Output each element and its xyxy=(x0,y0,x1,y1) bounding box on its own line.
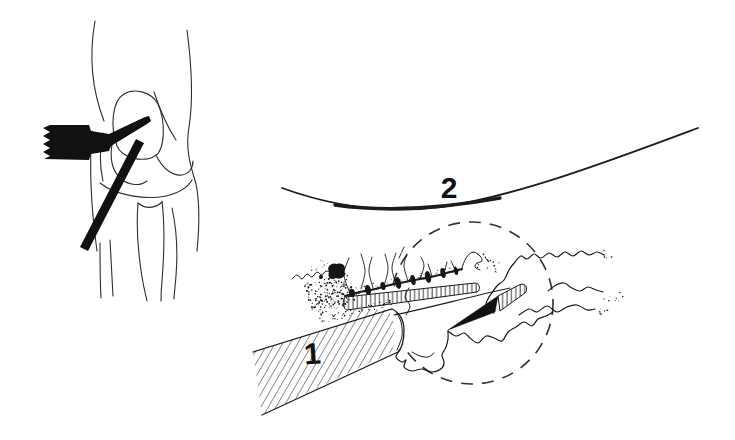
stipple-dot xyxy=(335,281,336,282)
stipple-dot xyxy=(327,302,328,303)
stipple-dot xyxy=(603,250,604,251)
stipple-dot xyxy=(455,266,456,267)
stipple-dot xyxy=(308,299,310,301)
stipple-dot xyxy=(340,290,342,292)
stipple-dot xyxy=(487,267,488,268)
stipple-dot xyxy=(321,321,322,322)
stipple-dot xyxy=(420,277,421,278)
magnifier-dashed-circle xyxy=(391,222,553,384)
stipple-dot xyxy=(332,291,333,292)
stipple-dot xyxy=(399,283,400,284)
stipple-dot xyxy=(408,281,409,282)
stipple-dot xyxy=(330,268,331,269)
stipple-dot xyxy=(346,285,347,286)
stipple-dot xyxy=(334,318,335,319)
stipple-dot xyxy=(374,309,375,310)
inner-line-d xyxy=(154,92,176,140)
stipple-dot xyxy=(345,281,346,282)
stipple-dot xyxy=(342,304,344,306)
stipple-dot xyxy=(599,311,600,312)
stipple-dot xyxy=(343,282,344,283)
stipple-dot xyxy=(452,272,453,273)
stipple-dot xyxy=(322,312,324,314)
leg-contour-right xyxy=(187,30,199,251)
inner-line-a xyxy=(100,243,101,298)
stipple-dot xyxy=(397,285,398,286)
stipple-dot xyxy=(458,270,459,271)
stipple-dot xyxy=(423,278,425,280)
stipple-dot xyxy=(342,315,343,316)
stipple-dot xyxy=(318,288,319,289)
stipple-dot xyxy=(333,315,335,317)
stipple-dot xyxy=(345,287,347,289)
stipple-dot xyxy=(461,270,462,271)
tissue-squiggle xyxy=(519,305,595,315)
stipple-dot xyxy=(498,262,499,263)
stipple-dot xyxy=(332,314,333,315)
stipple-dot xyxy=(389,300,391,302)
stipple-dot xyxy=(305,284,306,285)
stipple-dot xyxy=(330,300,331,301)
stipple-dot xyxy=(328,297,330,299)
stipple-dot xyxy=(337,291,339,293)
stipple-dot xyxy=(326,278,327,279)
inner-line-b xyxy=(110,240,113,296)
stipple-dot xyxy=(345,300,346,301)
stipple-dot xyxy=(316,284,317,285)
stipple-dot xyxy=(333,273,335,275)
stipple-dot xyxy=(379,302,380,303)
stipple-dot xyxy=(319,309,320,310)
stipple-dot xyxy=(352,295,353,296)
stipple-dot xyxy=(325,288,326,289)
fringe-strand xyxy=(399,247,404,258)
stipple-dot xyxy=(349,289,350,290)
stipple-dot xyxy=(337,302,339,304)
stipple-dot xyxy=(332,304,334,306)
stipple-dot xyxy=(311,289,313,291)
tibia-edge-right xyxy=(161,201,164,301)
stipple-dot xyxy=(331,301,332,302)
stipple-dot xyxy=(340,286,341,287)
stipple-dot xyxy=(477,263,478,264)
stipple-dot xyxy=(334,302,336,304)
stipple-dot xyxy=(370,306,371,307)
stipple-dot xyxy=(316,300,317,301)
stipple-dot xyxy=(325,284,327,286)
stipple-dot xyxy=(345,303,347,305)
strip-ticks xyxy=(343,283,479,310)
stipple-dot xyxy=(387,282,388,283)
stipple-dot xyxy=(345,311,347,313)
stipple-dot xyxy=(327,292,328,293)
knee-outline-sketch xyxy=(91,21,199,301)
stipple-dot xyxy=(343,303,345,305)
stipple-dot xyxy=(328,303,330,305)
stipple-dot xyxy=(492,261,494,263)
stipple-dot xyxy=(367,287,368,288)
stipple-dot xyxy=(459,269,460,270)
stipple-dot xyxy=(618,301,619,302)
stipple-dot xyxy=(347,293,348,294)
stipple-dot xyxy=(398,278,399,279)
stipple-dot xyxy=(478,264,479,265)
stipple-dot xyxy=(381,307,382,308)
stipple-dot xyxy=(335,314,336,315)
stipple-dot xyxy=(488,261,490,263)
stipple-dot xyxy=(323,320,324,321)
stipple-dot xyxy=(401,280,402,281)
stipple-dot xyxy=(308,282,309,283)
stipple-dot xyxy=(349,291,350,292)
stipple-dot xyxy=(346,301,348,303)
stipple-dot xyxy=(358,293,359,294)
stipple-dot xyxy=(603,299,604,300)
stipple-dot xyxy=(332,276,334,278)
tissue-squiggle xyxy=(548,283,603,292)
stipple-dot xyxy=(604,256,605,257)
stipple-dot xyxy=(322,267,323,268)
stipple-dot xyxy=(611,257,612,258)
stipple-dot xyxy=(328,282,330,284)
stipple-dot xyxy=(368,305,369,306)
stipple-dot xyxy=(338,280,340,282)
stipple-dot xyxy=(308,294,310,296)
stipple-dot xyxy=(331,298,332,299)
stipple-dot xyxy=(325,298,327,300)
